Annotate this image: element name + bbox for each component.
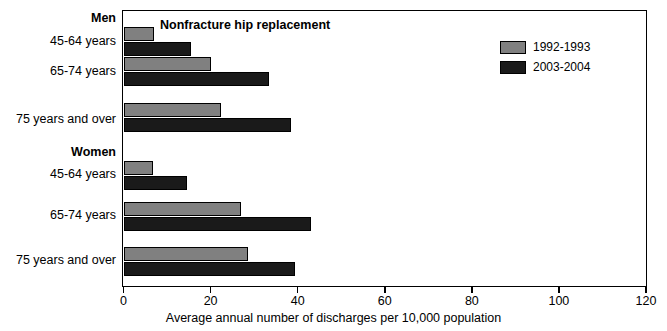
bar-1992-1993-men-65-74-years [124, 57, 211, 71]
legend-swatch-1992-1993 [500, 41, 526, 54]
x-tick [297, 287, 299, 293]
bar-1992-1993-women-45-64-years [124, 161, 154, 175]
chart-container: Nonfracture hip replacement 1992-1993 20… [0, 0, 667, 331]
x-tick-label: 100 [539, 294, 579, 308]
category-label-men-75-over: 75 years and over [16, 112, 116, 126]
legend-label-1992-1993: 1992-1993 [533, 40, 590, 54]
category-label-women-65-74: 65-74 years [50, 208, 116, 222]
x-tick [471, 287, 473, 293]
bar-2003-2004-men-75-years-and-over [124, 118, 292, 132]
category-label-men-65-74: 65-74 years [50, 64, 116, 78]
x-tick [384, 287, 386, 293]
bar-2003-2004-women-45-64-years [124, 176, 187, 190]
bar-1992-1993-men-75-years-and-over [124, 103, 222, 117]
x-tick-label: 80 [452, 294, 492, 308]
legend-item: 1992-1993 [500, 40, 590, 54]
category-label-women-75-over: 75 years and over [16, 253, 116, 267]
group-label-women: Women [71, 145, 116, 159]
bar-2003-2004-men-45-64-years [124, 42, 191, 56]
bar-2003-2004-men-65-74-years [124, 72, 270, 86]
legend-item: 2003-2004 [500, 60, 590, 74]
category-label-women-45-64: 45-64 years [50, 167, 116, 181]
x-tick-label: 120 [626, 294, 666, 308]
legend-label-2003-2004: 2003-2004 [533, 60, 590, 74]
x-tick-label: 0 [104, 294, 144, 308]
legend-swatch-2003-2004 [500, 61, 526, 74]
x-tick-label: 60 [365, 294, 405, 308]
bar-2003-2004-women-65-74-years [124, 217, 311, 231]
x-tick [645, 287, 647, 293]
bar-1992-1993-women-65-74-years [124, 202, 242, 216]
chart-legend: 1992-1993 2003-2004 [500, 40, 590, 80]
category-label-men-45-64: 45-64 years [50, 34, 116, 48]
group-label-men: Men [91, 11, 116, 25]
bar-2003-2004-women-75-years-and-over [124, 262, 296, 276]
x-axis-title: Average annual number of discharges per … [0, 311, 667, 325]
x-tick-label: 40 [278, 294, 318, 308]
x-tick [558, 287, 560, 293]
x-tick [123, 287, 125, 293]
chart-title: Nonfracture hip replacement [160, 18, 330, 32]
bar-1992-1993-women-75-years-and-over [124, 247, 248, 261]
bar-1992-1993-men-45-64-years [124, 27, 154, 41]
x-tick [210, 287, 212, 293]
x-tick-label: 20 [191, 294, 231, 308]
